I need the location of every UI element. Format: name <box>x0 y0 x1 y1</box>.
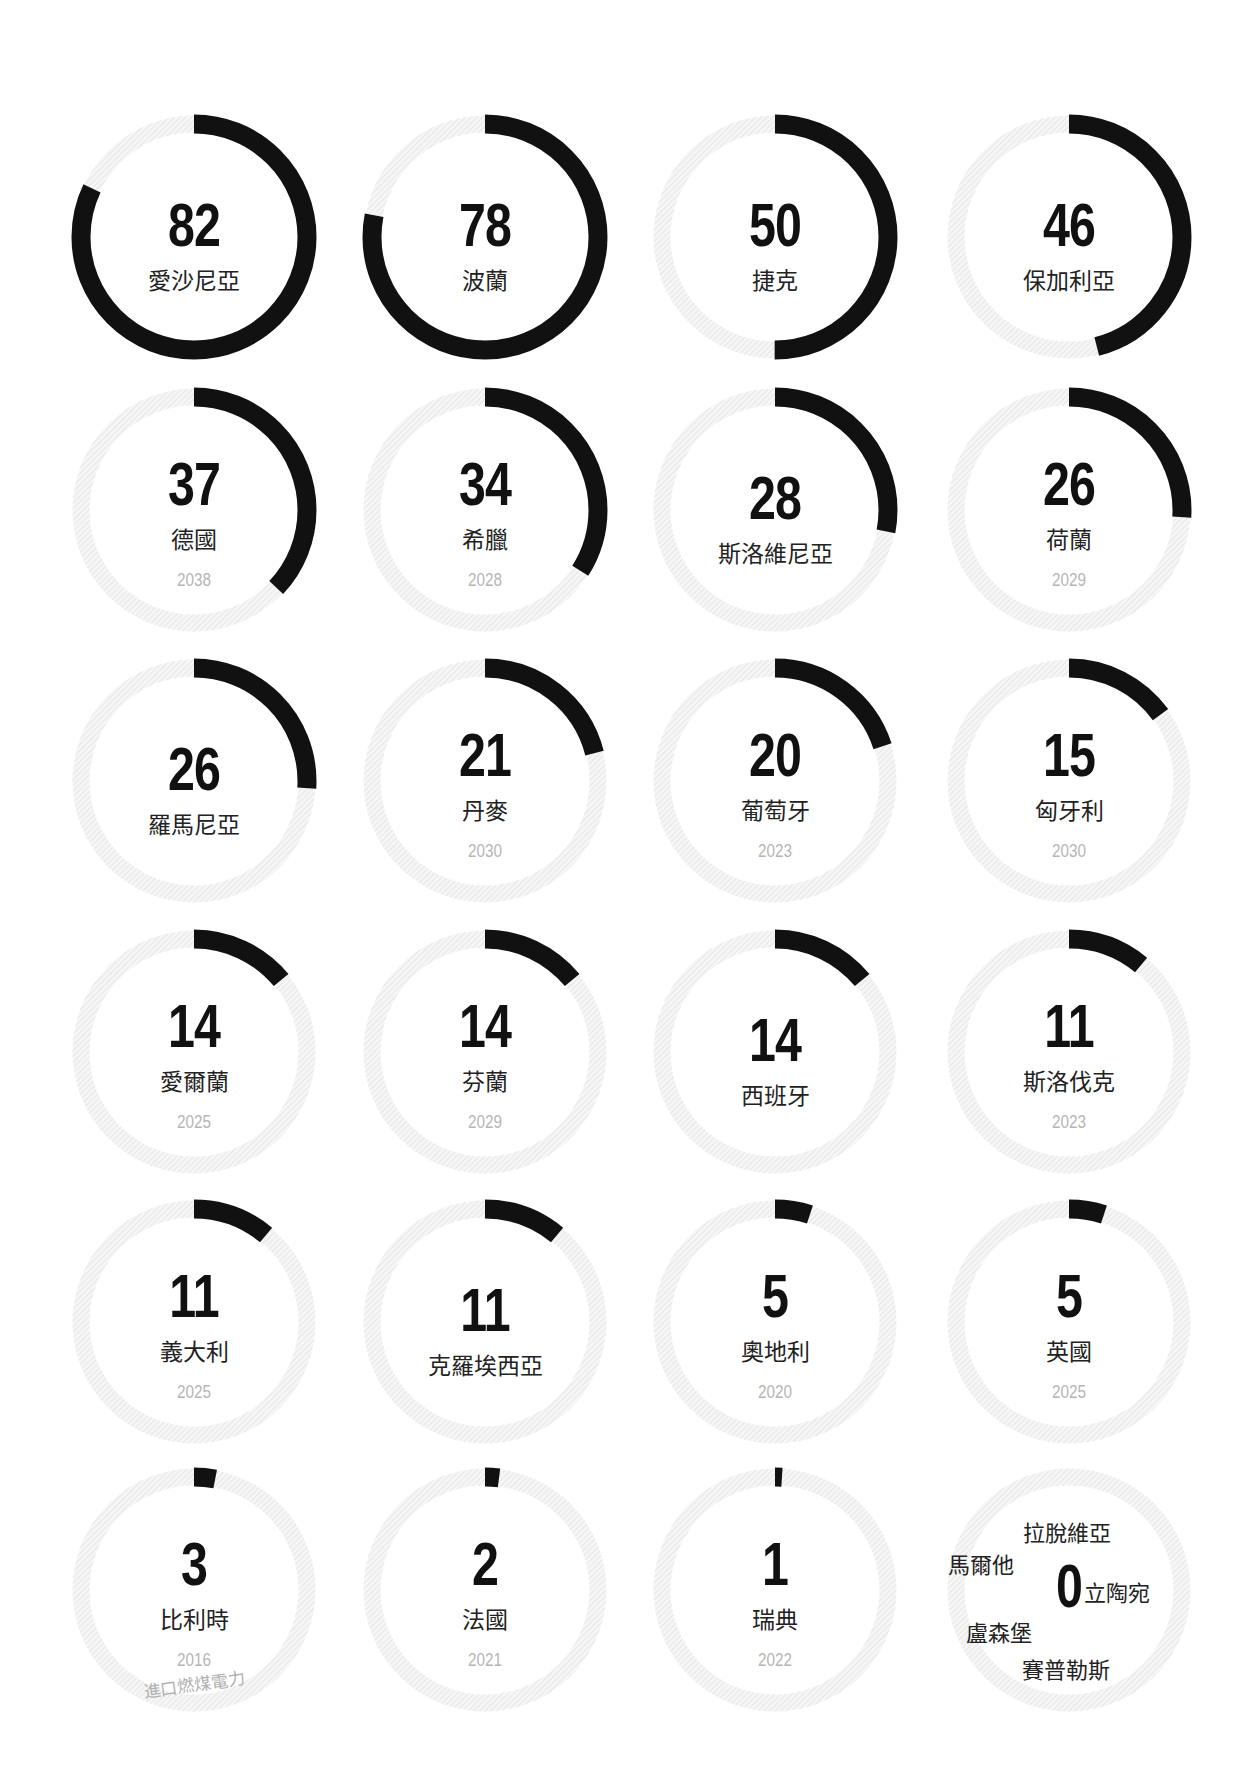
value-label: 21 <box>380 724 591 786</box>
year-label: 2029 <box>370 1112 600 1133</box>
year-label: 2023 <box>660 841 890 862</box>
country-label-cyprus: 賽普勒斯 <box>1022 1652 1110 1684</box>
value-label: 3 <box>89 1533 300 1595</box>
value-label: 14 <box>89 995 300 1057</box>
country-ring-cell: 46 保加利亞 <box>934 102 1204 372</box>
value-label: 50 <box>670 194 881 256</box>
country-ring-cell: 82 愛沙尼亞 <box>59 102 329 372</box>
year-label: 2022 <box>660 1650 890 1671</box>
value-label: 78 <box>380 194 591 256</box>
year-label: 2028 <box>370 570 600 591</box>
country-label: 義大利 <box>59 1333 329 1367</box>
year-label: 2030 <box>954 841 1184 862</box>
country-label: 愛沙尼亞 <box>59 262 329 296</box>
country-label: 斯洛維尼亞 <box>640 535 910 569</box>
country-ring-cell: 1 瑞典 2022 <box>640 1455 910 1725</box>
country-ring-cell: 14 愛爾蘭 2025 <box>59 917 329 1187</box>
country-label-malta: 馬爾他 <box>948 1547 1014 1579</box>
country-label: 斯洛伐克 <box>934 1063 1204 1097</box>
value-label: 11 <box>89 1265 300 1327</box>
country-ring-cell: 14 芬蘭 2029 <box>350 917 620 1187</box>
country-label: 保加利亞 <box>934 262 1204 296</box>
country-ring-cell: 26 荷蘭 2029 <box>934 375 1204 645</box>
country-label: 德國 <box>59 521 329 555</box>
value-label: 14 <box>380 995 591 1057</box>
value-label: 11 <box>964 995 1175 1057</box>
value-label: 20 <box>670 724 881 786</box>
value-label: 1 <box>670 1533 881 1595</box>
year-label: 2025 <box>79 1112 309 1133</box>
year-label: 2029 <box>954 570 1184 591</box>
country-ring-cell: 2 法國 2021 <box>350 1455 620 1725</box>
country-label: 克羅埃西亞 <box>350 1347 620 1381</box>
value-label: 5 <box>670 1265 881 1327</box>
country-label: 捷克 <box>640 262 910 296</box>
country-label: 丹麥 <box>350 792 620 826</box>
year-label: 2038 <box>79 570 309 591</box>
country-label: 匈牙利 <box>934 792 1204 826</box>
country-label: 法國 <box>350 1601 620 1635</box>
country-label-latvia: 拉脫維亞 <box>1023 1515 1111 1547</box>
country-label: 瑞典 <box>640 1601 910 1635</box>
value-label: 2 <box>380 1533 591 1595</box>
country-label: 荷蘭 <box>934 521 1204 555</box>
country-label-luxembourg: 盧森堡 <box>966 1615 1032 1647</box>
country-ring-cell: 28 斯洛維尼亞 <box>640 375 910 645</box>
country-label: 奧地利 <box>640 1333 910 1367</box>
country-label: 芬蘭 <box>350 1063 620 1097</box>
value-label: 26 <box>89 738 300 800</box>
country-ring-cell: 5 奧地利 2020 <box>640 1187 910 1457</box>
year-label: 2021 <box>370 1650 600 1671</box>
value-label: 46 <box>964 194 1175 256</box>
value-label: 15 <box>964 724 1175 786</box>
country-label: 羅馬尼亞 <box>59 806 329 840</box>
value-label: 26 <box>964 453 1175 515</box>
country-ring-cell: 78 波蘭 <box>350 102 620 372</box>
zero-group-cell: 0 拉脫維亞 馬爾他 立陶宛 盧森堡 賽普勒斯 <box>934 1455 1204 1725</box>
country-ring-cell: 21 丹麥 2030 <box>350 646 620 916</box>
country-ring-cell: 11 克羅埃西亞 <box>350 1187 620 1457</box>
country-ring-cell: 34 希臘 2028 <box>350 375 620 645</box>
year-label: 2030 <box>370 841 600 862</box>
country-ring-cell: 50 捷克 <box>640 102 910 372</box>
country-label: 西班牙 <box>640 1077 910 1111</box>
country-label: 愛爾蘭 <box>59 1063 329 1097</box>
year-label: 2023 <box>954 1112 1184 1133</box>
value-label: 28 <box>670 467 881 529</box>
country-ring-cell: 20 葡萄牙 2023 <box>640 646 910 916</box>
value-label: 34 <box>380 453 591 515</box>
year-label: 2020 <box>660 1382 890 1403</box>
country-label-lithuania: 立陶宛 <box>1084 1575 1150 1607</box>
value-label: 82 <box>89 194 300 256</box>
country-label: 葡萄牙 <box>640 792 910 826</box>
value-label: 14 <box>670 1009 881 1071</box>
country-label: 比利時 <box>59 1601 329 1635</box>
country-ring-cell: 15 匈牙利 2030 <box>934 646 1204 916</box>
country-ring-cell: 11 斯洛伐克 2023 <box>934 917 1204 1187</box>
country-ring-cell: 5 英國 2025 <box>934 1187 1204 1457</box>
country-label: 英國 <box>934 1333 1204 1367</box>
year-label: 2025 <box>954 1382 1184 1403</box>
value-label: 37 <box>89 453 300 515</box>
country-label: 波蘭 <box>350 262 620 296</box>
value-label: 5 <box>964 1265 1175 1327</box>
country-ring-cell: 14 西班牙 <box>640 917 910 1187</box>
country-ring-cell: 26 羅馬尼亞 <box>59 646 329 916</box>
year-label: 2025 <box>79 1382 309 1403</box>
country-label: 希臘 <box>350 521 620 555</box>
country-ring-cell: 11 義大利 2025 <box>59 1187 329 1457</box>
country-ring-cell: 3 比利時 2016 進口燃煤電力 <box>59 1455 329 1725</box>
country-ring-cell: 37 德國 2038 <box>59 375 329 645</box>
value-label: 11 <box>380 1279 591 1341</box>
